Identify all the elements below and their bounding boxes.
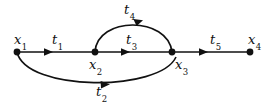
node-label-x3-base: x xyxy=(175,57,183,72)
edge-label-t2-sub: 2 xyxy=(102,94,107,103)
edge-label-t3-base: t xyxy=(126,32,131,47)
edge-label-t4-base: t xyxy=(124,2,129,17)
edge-label-t1: t1 xyxy=(52,33,63,46)
edge-label-t2-base: t xyxy=(96,84,101,99)
edge-label-t4: t4 xyxy=(124,3,135,16)
node-label-x4-base: x xyxy=(248,32,256,47)
node-label-x3: x3 xyxy=(175,58,188,71)
edge-label-t3: t3 xyxy=(126,33,137,46)
node-dot-x3 xyxy=(169,49,176,56)
signal-flow-diagram: x1 x2 x3 x4 t1 t2 t3 t4 t5 xyxy=(0,0,276,103)
edge-label-t2: t2 xyxy=(96,85,107,98)
node-label-x1: x1 xyxy=(14,33,27,46)
node-dot-x4 xyxy=(247,49,254,56)
edge-label-t5: t5 xyxy=(210,33,221,46)
edge-label-t4-sub: 4 xyxy=(130,12,135,22)
edge-label-t5-base: t xyxy=(210,32,215,47)
arrowhead-t5 xyxy=(199,48,208,56)
edge-label-t5-sub: 5 xyxy=(216,42,221,52)
node-dot-x2 xyxy=(92,49,99,56)
node-dot-x1 xyxy=(14,49,21,56)
node-label-x3-sub: 3 xyxy=(183,67,188,77)
arrowhead-t3 xyxy=(121,48,130,56)
edge-label-t1-base: t xyxy=(52,32,57,47)
edge-label-t1-sub: 1 xyxy=(58,42,63,52)
arrowhead-t1 xyxy=(44,48,53,56)
graph-canvas xyxy=(0,0,276,103)
node-label-x1-base: x xyxy=(14,32,22,47)
node-label-x4-sub: 4 xyxy=(256,42,261,52)
node-label-x2-sub: 2 xyxy=(97,67,102,77)
node-label-x2-base: x xyxy=(89,57,97,72)
node-label-x1-sub: 1 xyxy=(22,42,27,52)
node-label-x4: x4 xyxy=(248,33,261,46)
node-label-x2: x2 xyxy=(89,58,102,71)
edge-label-t3-sub: 3 xyxy=(132,42,137,52)
